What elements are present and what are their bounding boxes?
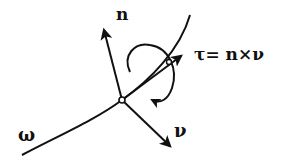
label-omega: ω [18,126,35,144]
origin-point [119,97,125,103]
label-tau-formula: τ= n×ν [194,46,264,63]
rotation-arrow-icon [128,45,174,102]
label-n: n [116,6,128,23]
crossing-point [167,60,172,65]
binormal-vector-nu [122,100,170,146]
diagram-svg [0,0,287,168]
label-nu: ν [174,122,187,140]
diagram-canvas: n τ= n×ν ω ν [0,0,287,168]
tangent-vector-tau [122,56,181,100]
normal-vector-n [104,30,122,100]
